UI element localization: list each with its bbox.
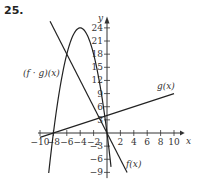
y-axis-label: y [97, 13, 104, 23]
function-graph: xy−10−8−6−4−22468102421181512963−3−6−9f(… [0, 0, 197, 188]
fg-label: (f · g)(x) [23, 68, 60, 78]
y-tick-label: 24 [92, 23, 104, 33]
x-tick-label: 6 [144, 137, 150, 147]
y-tick-label: −9 [90, 167, 104, 177]
y-tick-label: −3 [90, 141, 104, 151]
x-tick-label: 4 [131, 137, 137, 147]
x-tick-label: −8 [47, 137, 61, 147]
x-tick-label: −4 [74, 137, 88, 147]
x-axis-arrow-icon [180, 131, 185, 136]
x-tick-label: 2 [118, 137, 124, 147]
y-axis-arrow-icon [105, 16, 110, 23]
f-line [50, 21, 127, 172]
x-tick-label: −6 [60, 137, 74, 147]
x-tick-label: 10 [168, 137, 180, 147]
y-tick-label: −6 [90, 154, 104, 164]
g-label: g(x) [157, 81, 175, 91]
x-axis-label: x [186, 136, 191, 146]
x-tick-label: 8 [158, 137, 164, 147]
f-label: f(x) [125, 159, 142, 169]
y-tick-label: 12 [92, 75, 103, 85]
y-tick-label: 21 [92, 36, 103, 46]
